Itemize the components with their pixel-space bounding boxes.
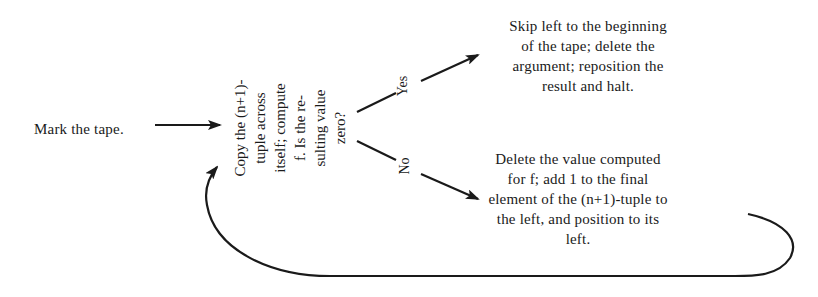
loop-node: Delete the value computed for f; add 1 t… xyxy=(478,149,678,249)
decision-node: Copy the (n+1)- tuple across itself; com… xyxy=(225,60,355,180)
decision-line: Copy the (n+1)- xyxy=(230,63,250,193)
arrow-yes-segment-2 xyxy=(421,55,478,81)
halt-node: Skip left to the beginning of the tape; … xyxy=(488,16,688,96)
decision-line: f. Is the re- xyxy=(290,63,310,193)
start-node-text: Mark the tape. xyxy=(34,119,124,139)
decision-line: zero? xyxy=(330,63,350,193)
decision-line: tuple across xyxy=(250,63,270,193)
loop-line: element of the (n+1)-tuple to xyxy=(478,189,678,209)
loop-line: the left, and position to its xyxy=(478,209,678,229)
yes-branch-label: Yes xyxy=(395,76,411,96)
halt-line: of the tape; delete the xyxy=(488,36,688,56)
loop-line: left. xyxy=(478,229,678,249)
halt-line: result and halt. xyxy=(488,76,688,96)
decision-line: sulting value xyxy=(310,63,330,193)
halt-line: argument; reposition the xyxy=(488,56,688,76)
arrow-no-segment-1 xyxy=(357,141,396,160)
decision-line: itself; compute xyxy=(270,63,290,193)
arrow-no-segment-2 xyxy=(421,174,478,199)
start-node: Mark the tape. xyxy=(34,119,124,139)
halt-line: Skip left to the beginning xyxy=(488,16,688,36)
arrow-yes-segment-1 xyxy=(357,93,396,112)
no-branch-label: No xyxy=(397,157,413,174)
diagram-edges xyxy=(0,0,818,297)
loop-line: Delete the value computed xyxy=(478,149,678,169)
loop-line: for f; add 1 to the final xyxy=(478,169,678,189)
decision-node-text: Copy the (n+1)- tuple across itself; com… xyxy=(230,63,350,193)
